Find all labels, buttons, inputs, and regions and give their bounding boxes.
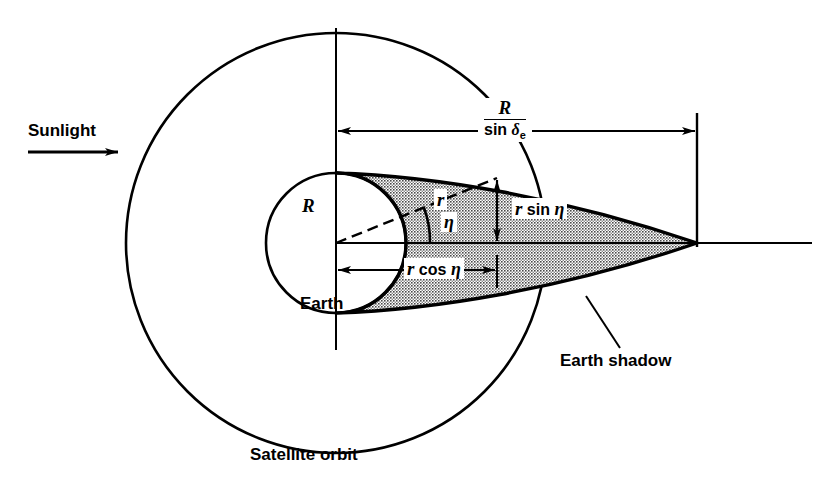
r-sin-eta-fn: sin [527,201,550,218]
r-cos-eta-fn: cos [419,261,447,278]
shadow-length-label: R sin δe [478,98,532,142]
earth-shadow-label: Earth shadow [560,352,671,369]
shadow-length-denominator-var: δ [512,121,520,138]
diagram-canvas [0,0,820,492]
shadow-length-numerator: R [484,98,526,118]
eta-angle-label: η [441,212,457,232]
shadow-length-denominator-sub: e [520,129,526,141]
sunlight-label: Sunlight [28,122,96,139]
r-sin-eta-label: r sin η [512,198,567,219]
shadow-length-denominator-fn: sin [484,121,507,138]
shadow-length-denominator: sin δe [484,122,526,142]
satellite-orbit-label: Satellite orbit [250,446,358,463]
r-sin-eta-var: r [515,198,522,219]
earth-shadow-leader [586,296,620,348]
orbit-radius-label: r [434,189,447,210]
earth-shadow-figure: Sunlight R Earth Earth shadow Satellite … [0,0,820,492]
r-cos-eta-angle: η [451,259,461,279]
earth-label: Earth [300,295,343,312]
earth-radius-label: R [302,196,315,215]
r-sin-eta-angle: η [554,199,564,219]
fraction-bar [484,119,526,120]
r-cos-eta-label: r cos η [404,258,464,279]
r-cos-eta-var: r [407,258,414,279]
